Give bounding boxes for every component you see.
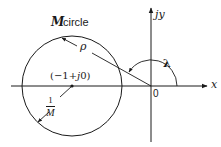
origin-label: 0 (153, 89, 159, 99)
rho-label: ρ (80, 41, 86, 52)
fraction-denominator: M (46, 108, 54, 118)
m-circle-diagram (0, 0, 221, 147)
fraction-numerator: 1 (48, 96, 53, 105)
y-axis-label: jy (155, 9, 165, 20)
radius-fraction: 1 M (46, 96, 55, 118)
center-label-part2: 0) (80, 70, 90, 81)
x-axis-label: x (211, 79, 217, 90)
radius-line-upper (60, 86, 72, 97)
center-label: (−1+j0) (50, 71, 90, 81)
lambda-label: λ (163, 58, 171, 69)
center-label-part1: (−1+ (50, 70, 77, 81)
rho-arrow (62, 38, 77, 46)
title-circle: circle (63, 17, 89, 28)
